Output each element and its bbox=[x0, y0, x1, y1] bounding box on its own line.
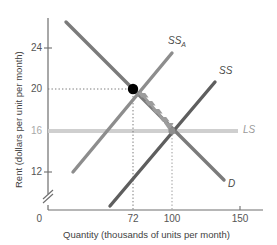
point-equilibrium-initial bbox=[128, 84, 138, 94]
series-label-ss-a-subscript: A bbox=[181, 41, 186, 48]
series-label-ls: LS bbox=[243, 125, 255, 135]
y-axis-origin-label: 0 bbox=[20, 214, 42, 224]
series-line-ss bbox=[110, 82, 215, 206]
series-label-d: D bbox=[228, 179, 235, 189]
series-label-ss-a: SSA bbox=[168, 36, 186, 48]
point-equilibrium-final bbox=[168, 127, 175, 134]
x-tick-label-72: 72 bbox=[113, 214, 153, 224]
chart-figure: 24 20 16 12 0 72 100 150 Rent (dollars p… bbox=[0, 0, 277, 245]
y-axis-title: Rent (dollars per unit per month) bbox=[14, 51, 24, 188]
adjustment-arrow-chain bbox=[138, 92, 174, 131]
x-tick-label-100: 100 bbox=[152, 214, 192, 224]
x-tick-label-150: 150 bbox=[220, 214, 260, 224]
chart-plot-area bbox=[0, 0, 277, 245]
x-axis-title: Quantity (thousands of units per month) bbox=[63, 230, 230, 240]
series-label-ss-a-text: SS bbox=[168, 35, 181, 46]
series-label-ss: SS bbox=[219, 66, 232, 76]
